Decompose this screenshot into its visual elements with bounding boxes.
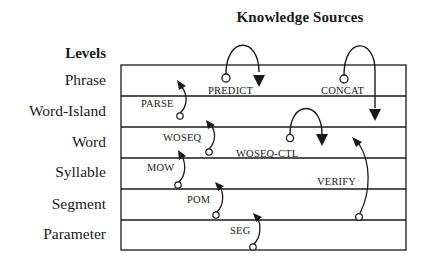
arrowhead-down-icon: [253, 75, 265, 87]
ks-parse: PARSE: [141, 80, 186, 119]
ks-label-woseq-ctl: WOSEQ-CTL: [236, 148, 298, 159]
ks-woseq-ctl: WOSEQ-CTL: [236, 109, 328, 160]
source-node-icon: [175, 182, 181, 188]
source-node-icon: [206, 149, 212, 155]
source-node-icon: [222, 74, 230, 82]
arc-connector: [226, 45, 259, 74]
ks-pom: POM: [187, 182, 224, 218]
source-node-icon: [177, 113, 183, 119]
source-node-icon: [286, 134, 293, 141]
arc-connector: [344, 46, 375, 108]
ks-label-mow: MOW: [147, 162, 174, 173]
source-node-icon: [213, 212, 219, 218]
ks-concat: CONCAT: [321, 46, 381, 121]
ks-label-predict: PREDICT: [208, 85, 254, 96]
arc-connector: [209, 125, 215, 149]
arc-connector: [180, 86, 186, 113]
ks-predict: PREDICT: [208, 45, 265, 96]
source-node-icon: [340, 75, 348, 83]
source-node-icon: [250, 244, 256, 250]
arrowhead-down-icon: [316, 134, 328, 146]
levels-diagram: PREDICT CONCAT PARSE WOSEQ WOSEQ-CTL MOW: [0, 0, 422, 270]
ks-label-concat: CONCAT: [321, 85, 365, 96]
ks-label-seg: SEG: [230, 225, 251, 236]
ks-seg: SEG: [230, 213, 262, 250]
ks-woseq: WOSEQ: [163, 120, 215, 155]
arrowhead-down-icon: [369, 109, 381, 121]
ks-label-verify: VERIFY: [317, 176, 356, 187]
arc-connector: [359, 144, 368, 213]
ks-label-woseq: WOSEQ: [163, 132, 202, 143]
ks-label-parse: PARSE: [141, 98, 174, 109]
arrowhead-up-icon: [177, 80, 186, 90]
arc-connector: [217, 187, 223, 212]
ks-verify: VERIFY: [317, 137, 368, 220]
arc-connector: [290, 109, 322, 135]
source-node-icon: [356, 214, 363, 221]
ks-mow: MOW: [147, 150, 186, 188]
arc-connector: [179, 156, 185, 182]
arc-connector: [254, 218, 260, 244]
ks-label-pom: POM: [187, 194, 211, 205]
